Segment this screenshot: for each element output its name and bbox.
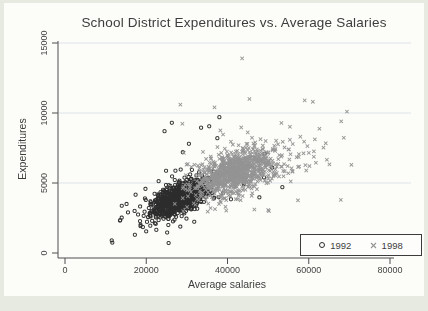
chart-title: School District Expenditures vs. Average… xyxy=(48,15,420,30)
x-tick-label: 40000 xyxy=(215,265,240,275)
legend-item-1998: 1998 xyxy=(370,240,403,251)
x-tick-label: 80000 xyxy=(377,265,402,275)
scanned-figure-page: School District Expenditures vs. Average… xyxy=(0,0,428,311)
x-tick-label: 0 xyxy=(62,265,67,275)
legend-label-1998: 1998 xyxy=(382,240,403,251)
y-axis-title: Expenditures xyxy=(16,118,28,179)
x-tick-label: 60000 xyxy=(296,265,321,275)
y-tick-label: 10000 xyxy=(39,100,49,125)
legend-label-1992: 1992 xyxy=(330,240,351,251)
y-tick-label: 5000 xyxy=(39,173,49,193)
y-tick-label: 0 xyxy=(39,250,49,255)
legend-item-1992: 1992 xyxy=(319,240,351,251)
legend: 1992 1998 xyxy=(300,234,422,256)
x-tick-label: 20000 xyxy=(134,265,159,275)
y-tick-label: 15000 xyxy=(39,30,49,55)
x-axis-title: Average salaries xyxy=(188,278,266,290)
x-marker-icon xyxy=(370,242,377,249)
circle-marker-icon xyxy=(319,242,325,248)
